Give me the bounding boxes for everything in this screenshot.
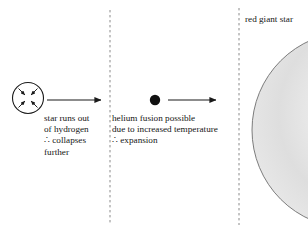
red-giant-star-label: red giant star bbox=[245, 14, 293, 25]
helium-core-dot bbox=[150, 95, 160, 105]
stellar-evolution-diagram: star runs out of hydrogen ∴ collapses fu… bbox=[0, 0, 308, 225]
stage1-caption: star runs out of hydrogen ∴ collapses fu… bbox=[44, 113, 89, 158]
collapsing-star-glyph bbox=[13, 83, 44, 114]
stage2-caption: helium fusion possible due to increased … bbox=[112, 113, 218, 147]
red-giant-sphere bbox=[252, 32, 308, 225]
